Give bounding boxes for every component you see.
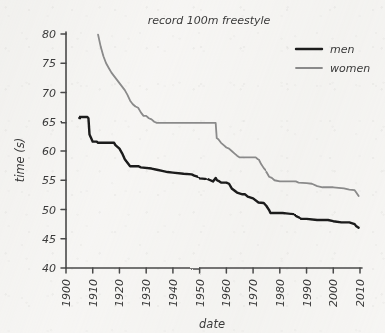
x-tick-label: 1900 [60, 279, 73, 307]
legend-label-men: men [330, 43, 354, 56]
series-line-women [98, 35, 359, 196]
x-tick-label: 2010 [354, 279, 367, 307]
x-tick-label: 1960 [220, 279, 233, 307]
y-tick-label: 40 [42, 262, 56, 275]
x-tick-label: 1950 [194, 279, 207, 307]
y-tick-label: 55 [42, 174, 56, 187]
chart-title: record 100m freestyle [148, 14, 271, 27]
record-freestyle-line-chart: 404550556065707580 190019101920193019401… [0, 0, 385, 333]
x-tick-label: 1990 [301, 279, 314, 307]
x-tick-label: 1930 [140, 279, 153, 307]
x-tick-label: 1940 [167, 279, 180, 307]
y-tick-label: 60 [42, 145, 56, 158]
x-tick-label: 2000 [327, 279, 340, 307]
x-axis-tick-labels: 1900191019201930194019501960197019801990… [60, 279, 367, 307]
data-series-group [79, 35, 358, 228]
y-axis-tick-labels: 404550556065707580 [42, 28, 56, 275]
series-line-men [79, 117, 358, 228]
y-tick-label: 75 [42, 57, 56, 70]
y-axis-title: time (s) [13, 138, 27, 183]
x-tick-label: 1910 [87, 279, 100, 307]
y-tick-label: 50 [42, 204, 56, 217]
x-tick-label: 1970 [247, 279, 260, 307]
y-tick-label: 45 [42, 233, 56, 246]
y-tick-label: 65 [42, 116, 56, 129]
x-tick-label: 1920 [113, 279, 126, 307]
legend-label-women: women [330, 62, 370, 75]
chart-page: 404550556065707580 190019101920193019401… [0, 0, 385, 333]
y-tick-label: 70 [42, 87, 56, 100]
y-tick-label: 80 [42, 28, 56, 41]
x-tick-label: 1980 [274, 279, 287, 307]
x-axis-title: date [199, 317, 225, 331]
legend-labels: menwomen [330, 43, 370, 75]
legend-swatches [296, 49, 322, 68]
